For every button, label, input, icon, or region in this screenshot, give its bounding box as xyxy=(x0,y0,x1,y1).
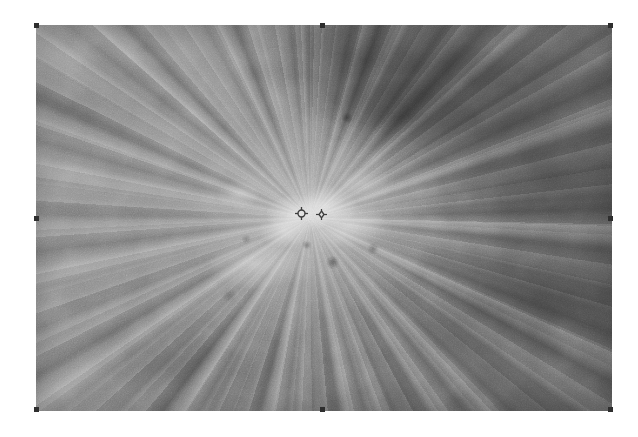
resize-handle-bottom-left[interactable] xyxy=(34,407,39,412)
resize-handle-top-left[interactable] xyxy=(34,23,39,28)
resize-handle-top-right[interactable] xyxy=(608,23,613,28)
crosshair-diamond-icon[interactable] xyxy=(316,209,327,220)
resize-handle-bottom-right[interactable] xyxy=(608,407,613,412)
resize-handle-middle-left[interactable] xyxy=(34,216,39,221)
crosshair-circle-icon[interactable] xyxy=(295,207,308,220)
page-canvas[interactable] xyxy=(0,0,638,437)
resize-handle-middle-right[interactable] xyxy=(608,216,613,221)
resize-handle-top-center[interactable] xyxy=(320,23,325,28)
resize-handle-bottom-center[interactable] xyxy=(320,407,325,412)
